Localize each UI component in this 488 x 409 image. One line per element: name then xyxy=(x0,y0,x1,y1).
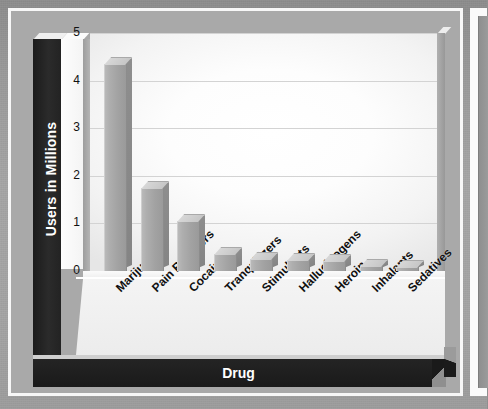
y-axis-tick-label: 2 xyxy=(64,168,80,182)
x-axis-title-band: Drug xyxy=(33,359,444,387)
gridline xyxy=(90,128,437,129)
y-axis-tick-label: 4 xyxy=(64,73,80,87)
gridline xyxy=(90,176,437,177)
y-axis-tick-label: 5 xyxy=(64,25,80,39)
bar-stimulants xyxy=(250,252,271,271)
bar-front-face xyxy=(141,188,164,271)
chart-figure-inner: Users in Millions 012345 Drug MarijuanaP… xyxy=(11,11,460,393)
bar-tranquilizers xyxy=(214,247,235,271)
plot-left-wall xyxy=(83,39,90,271)
bar-inhalants xyxy=(360,259,381,271)
bar-sedatives xyxy=(396,260,417,271)
bar-marijuana xyxy=(104,57,125,271)
y-axis-tick-label: 0 xyxy=(64,263,80,277)
plot-floor-front xyxy=(76,279,445,355)
y-axis-tick-label: 1 xyxy=(64,215,80,229)
bar-heroin xyxy=(323,254,344,271)
bar-hallucinogens xyxy=(287,253,308,271)
gridline xyxy=(90,81,437,82)
bar-front-face xyxy=(323,261,346,271)
x-axis-band-right-bevel xyxy=(444,347,456,377)
y-axis-tick-label: 3 xyxy=(64,120,80,134)
chart-figure-panel: Users in Millions 012345 Drug MarijuanaP… xyxy=(8,8,463,396)
bar-front-face xyxy=(177,221,200,271)
adjacent-panel-body xyxy=(478,16,488,388)
bar-pain-relievers xyxy=(141,181,162,271)
x-axis-title: Drug xyxy=(222,365,255,381)
bar-cocaine xyxy=(177,214,198,271)
bar-front-face xyxy=(250,259,273,271)
bar-front-face xyxy=(214,254,237,271)
bar-front-face xyxy=(287,260,310,271)
y-axis-tick-strip: 012345 xyxy=(61,39,83,269)
y-axis-title-band: Users in Millions xyxy=(33,39,61,359)
gridline xyxy=(90,33,437,34)
bar-front-face xyxy=(104,64,127,271)
